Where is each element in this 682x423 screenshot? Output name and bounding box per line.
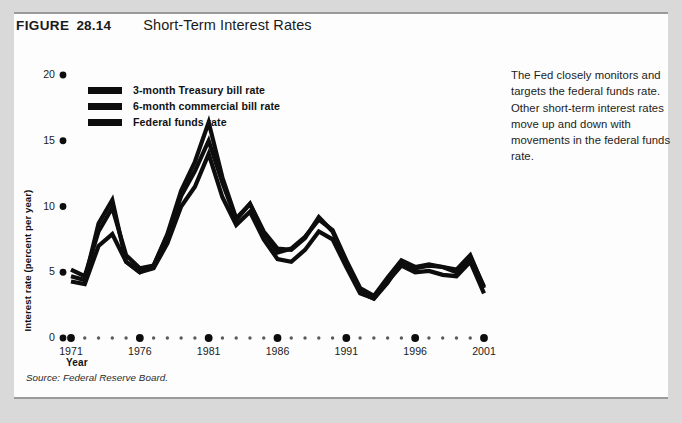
x-minor-tick-dot	[97, 336, 100, 339]
x-major-tick-dot	[342, 334, 350, 342]
x-major-tick-dot	[480, 334, 488, 342]
figure-root: FIGURE 28.14 Short-Term Interest Rates T…	[0, 0, 682, 423]
legend-label: 3-month Treasury bill rate	[133, 84, 265, 96]
chart-series-lines	[71, 122, 484, 298]
y-tick-dot	[60, 72, 67, 79]
x-minor-tick-dot	[166, 336, 169, 339]
x-tick-label: 1981	[187, 345, 231, 357]
legend-swatch-icon	[88, 103, 122, 110]
x-minor-tick-dot	[221, 336, 224, 339]
x-major-tick-dot	[411, 334, 419, 342]
x-minor-tick-dot	[290, 336, 293, 339]
x-tick-label: 1996	[393, 345, 437, 357]
y-tick-dot	[60, 269, 67, 276]
series-line-0	[71, 154, 484, 299]
x-major-tick-dot	[67, 334, 75, 342]
x-tick-label: 1971	[49, 345, 93, 357]
x-minor-tick-dot	[455, 336, 458, 339]
y-tick-label: 15	[29, 134, 55, 146]
x-minor-tick-dot	[179, 336, 182, 339]
x-minor-tick-dot	[427, 336, 430, 339]
x-minor-tick-dot	[83, 336, 86, 339]
x-tick-label: 1991	[324, 345, 368, 357]
x-axis-major-ticks	[67, 334, 488, 342]
chart-plot-area: Interest rate (percent per year) 0510152…	[0, 0, 682, 423]
x-minor-tick-dot	[386, 336, 389, 339]
x-minor-tick-dot	[111, 336, 114, 339]
y-axis-ticks	[60, 72, 67, 342]
chart-legend: 3-month Treasury bill rate6-month commer…	[88, 83, 280, 131]
chart-svg	[0, 0, 682, 423]
legend-item: Federal funds rate	[88, 115, 280, 129]
x-minor-tick-dot	[358, 336, 361, 339]
y-tick-label: 5	[29, 265, 55, 277]
x-minor-tick-dot	[372, 336, 375, 339]
x-major-tick-dot	[136, 334, 144, 342]
x-minor-tick-dot	[248, 336, 251, 339]
y-tick-dot	[60, 203, 67, 210]
source-note: Source: Federal Reserve Board.	[26, 372, 168, 383]
y-tick-dot	[60, 335, 67, 342]
x-tick-label: 2001	[462, 345, 506, 357]
x-minor-tick-dot	[124, 336, 127, 339]
x-minor-tick-dot	[262, 336, 265, 339]
x-minor-tick-dot	[441, 336, 444, 339]
y-tick-label: 10	[29, 200, 55, 212]
x-tick-label: 1976	[118, 345, 162, 357]
legend-item: 6-month commercial bill rate	[88, 99, 280, 113]
y-tick-label: 0	[29, 331, 55, 343]
x-minor-tick-dot	[317, 336, 320, 339]
legend-label: Federal funds rate	[133, 116, 227, 128]
legend-swatch-icon	[88, 119, 122, 126]
x-major-tick-dot	[274, 334, 282, 342]
x-axis-title: Year	[66, 357, 88, 368]
legend-swatch-icon	[88, 87, 122, 94]
y-tick-label: 20	[29, 68, 55, 80]
x-minor-tick-dot	[331, 336, 334, 339]
y-tick-dot	[60, 137, 67, 144]
y-axis-title: Interest rate (percent per year)	[22, 171, 33, 351]
x-minor-tick-dot	[152, 336, 155, 339]
legend-label: 6-month commercial bill rate	[133, 100, 280, 112]
legend-item: 3-month Treasury bill rate	[88, 83, 280, 97]
x-minor-tick-dot	[400, 336, 403, 339]
x-minor-tick-dot	[303, 336, 306, 339]
x-minor-tick-dot	[469, 336, 472, 339]
x-tick-label: 1986	[256, 345, 300, 357]
x-minor-tick-dot	[235, 336, 238, 339]
x-major-tick-dot	[205, 334, 213, 342]
x-minor-tick-dot	[193, 336, 196, 339]
